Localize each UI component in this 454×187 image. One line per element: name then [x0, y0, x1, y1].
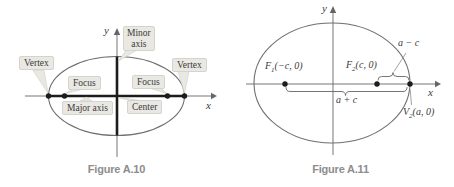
x-axis-label: x	[428, 86, 433, 98]
figure-a10-caption: Figure A.10	[3, 163, 230, 175]
left-vertex-dot	[46, 93, 51, 98]
f2-coordinates: (c, 0)	[356, 59, 377, 70]
right-vertex-dot	[182, 93, 187, 98]
x-axis-arrow-icon	[211, 93, 217, 99]
point-label-f2: F2(c, 0)	[346, 59, 377, 70]
callout-vertex-left-label: Vertex	[24, 58, 49, 68]
figure-a10: y x Vertex Focus Minor axis Vertex Focus…	[0, 0, 227, 187]
callout-center: Center	[127, 100, 162, 114]
callout-focus-right: Focus	[132, 75, 165, 89]
figure-a11-caption: Figure A.11	[227, 163, 454, 175]
callout-minor-axis-line1: Minor	[127, 28, 151, 38]
vertex-v2-dot	[407, 81, 412, 86]
focus-right-pointer-icon	[151, 89, 167, 94]
y-axis-arrow-icon	[114, 28, 120, 35]
ellipse-curve	[254, 23, 410, 143]
callout-center-label: Center	[132, 102, 157, 112]
focus-left-pointer-icon	[66, 90, 83, 94]
callout-vertex-right-label: Vertex	[177, 60, 202, 70]
measure-label-a-minus-c: a − c	[398, 37, 419, 48]
callout-minor-axis-line2: axis	[131, 39, 146, 49]
measure-label-a-plus-c: a + c	[336, 94, 357, 105]
point-label-v2: V2(a, 0)	[403, 106, 434, 117]
vertex-left-pointer-icon	[33, 71, 48, 94]
point-label-f1: F1(−c, 0)	[265, 60, 302, 71]
v2-coordinates: (a, 0)	[413, 106, 435, 117]
callout-focus-left-label: Focus	[73, 78, 96, 88]
a-minus-c-leader-line	[394, 53, 406, 72]
y-axis-label: y	[104, 24, 109, 36]
ellipse-figures-panel: y x Vertex Focus Minor axis Vertex Focus…	[0, 0, 454, 187]
focus-f1-dot	[282, 81, 287, 86]
a-minus-c-brace	[378, 73, 409, 81]
x-axis-label: x	[206, 99, 211, 111]
callout-major-axis-label: Major axis	[67, 103, 108, 113]
figure-a11: y x F1(−c, 0) F2(c, 0) V2(a, 0) a − c a …	[227, 0, 454, 187]
vertex-right-pointer-icon	[178, 72, 189, 94]
f1-coordinates: (−c, 0)	[275, 60, 303, 71]
y-axis-arrow-icon	[330, 6, 336, 13]
callout-vertex-left: Vertex	[19, 56, 54, 70]
callout-minor-axis: Minor axis	[123, 26, 155, 51]
left-focus-dot	[62, 93, 67, 98]
y-axis-label: y	[322, 2, 327, 14]
callout-focus-left: Focus	[68, 76, 101, 90]
v2-leader-line	[410, 90, 411, 106]
callout-major-axis: Major axis	[62, 101, 113, 115]
figure-a10-drawing	[0, 0, 227, 187]
focus-f2-dot	[374, 81, 379, 86]
x-axis-arrow-icon	[435, 81, 441, 87]
minor-axis-pointer-icon	[119, 51, 137, 62]
right-focus-dot	[165, 93, 170, 98]
callout-focus-right-label: Focus	[137, 77, 160, 87]
callout-vertex-right: Vertex	[172, 58, 207, 72]
